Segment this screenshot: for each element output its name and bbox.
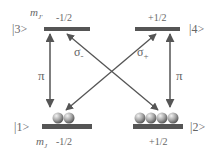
mj-prime-symbol: mJ' <box>30 6 43 21</box>
population-level-1 <box>53 113 75 124</box>
mj-value-2: +1/2 <box>149 136 167 147</box>
mj-value-4: +1/2 <box>148 12 166 23</box>
atom-ball-icon <box>146 113 157 124</box>
ket-label-2: |2> <box>190 120 205 134</box>
atom-ball-icon <box>168 113 179 124</box>
mj-value-1: -1/2 <box>56 136 72 147</box>
energy-level-diagram: |3> |4> |1> |2> mJ' -1/2 +1/2 mJ -1/2 +1… <box>0 0 223 151</box>
mj-symbol: mJ <box>36 135 48 150</box>
level-bar-3 <box>44 27 90 31</box>
level-bar-2 <box>133 124 183 129</box>
atom-ball-icon <box>53 113 64 124</box>
level-bar-1 <box>42 124 92 129</box>
sigma-plus-label: σ+ <box>137 45 149 61</box>
atom-ball-icon <box>135 113 146 124</box>
sigma-minus-transition-arrow <box>67 34 158 110</box>
level-bar-4 <box>135 27 180 31</box>
pi-label-left: π <box>38 68 45 83</box>
mj-value-3: -1/2 <box>56 12 72 23</box>
ket-label-1: |1> <box>14 120 29 134</box>
ket-label-3: |3> <box>12 22 27 36</box>
atom-ball-icon <box>157 113 168 124</box>
pi-label-right: π <box>176 68 183 83</box>
population-level-2 <box>135 113 179 124</box>
ket-label-4: |4> <box>189 22 204 36</box>
atom-ball-icon <box>64 113 75 124</box>
